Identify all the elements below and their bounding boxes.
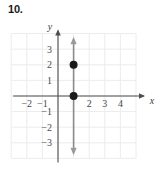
x-tick-label: 4 xyxy=(118,98,123,109)
y-tick-label: −1 xyxy=(41,106,52,117)
y-axis-arrow-icon xyxy=(55,30,61,36)
x-tick-label: 2 xyxy=(87,98,92,109)
x-tick-label: −2 xyxy=(21,98,32,109)
y-tick-label: −2 xyxy=(41,122,52,133)
x-axis-arrow-icon xyxy=(139,93,145,99)
y-axis-label: y xyxy=(47,21,53,32)
line-arrow-down-icon xyxy=(71,148,77,156)
y-tick-label: −3 xyxy=(41,137,52,148)
x-axis-label: x xyxy=(149,95,155,106)
data-point xyxy=(70,61,77,68)
y-tick-label: 2 xyxy=(47,59,52,70)
y-tick-label: 1 xyxy=(47,75,52,86)
figure-container: 10. y x −2−1234 xyxy=(0,0,162,170)
graph-svg: y x −2−1234 321−1−2−3 xyxy=(0,0,162,170)
line-arrow-up-icon xyxy=(71,37,77,45)
data-point xyxy=(70,93,77,100)
y-tick-label: 3 xyxy=(47,44,52,55)
x-tick-label: 3 xyxy=(102,98,107,109)
coordinate-plane: y x −2−1234 321−1−2−3 xyxy=(0,0,162,170)
